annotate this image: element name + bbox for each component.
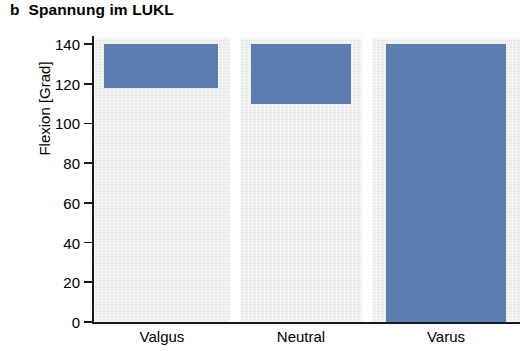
category-panel-valgus bbox=[94, 38, 230, 322]
bar-valgus[interactable] bbox=[104, 44, 218, 88]
category-panel-varus bbox=[372, 38, 520, 322]
y-tick-label: 80 bbox=[0, 155, 80, 172]
category-panel-neutral bbox=[240, 38, 362, 322]
x-tick-label-valgus: Valgus bbox=[94, 328, 230, 345]
y-tick-label: 40 bbox=[0, 234, 80, 251]
y-tick-label: 20 bbox=[0, 274, 80, 291]
x-tick-label-varus: Varus bbox=[372, 328, 520, 345]
y-axis-line bbox=[92, 36, 94, 324]
y-axis-tick-labels: 0 20 40 60 80 100 120 140 bbox=[0, 0, 80, 351]
x-axis-line bbox=[92, 322, 520, 324]
x-tick-label-neutral: Neutral bbox=[240, 328, 362, 345]
y-tick-label: 100 bbox=[0, 115, 80, 132]
bar-varus[interactable] bbox=[386, 44, 506, 322]
y-tick-label: 140 bbox=[0, 36, 80, 53]
bar-neutral[interactable] bbox=[251, 44, 351, 104]
y-tick-label: 0 bbox=[0, 314, 80, 331]
y-tick-label: 120 bbox=[0, 75, 80, 92]
y-tick-label: 60 bbox=[0, 194, 80, 211]
plot-area bbox=[94, 38, 520, 322]
figure-panel-b: b Spannung im LUKL Flexion [Grad] 0 20 4… bbox=[0, 0, 528, 351]
